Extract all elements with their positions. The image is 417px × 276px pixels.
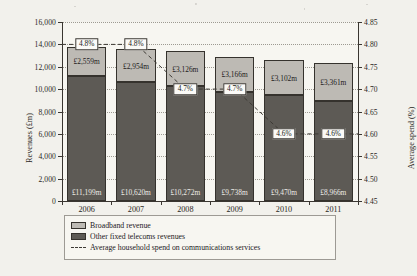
y-axis-left-tick-label: 4,000 [38, 152, 56, 161]
y-axis-right-tick [358, 134, 362, 135]
legend-label: Broadband revenue [90, 221, 151, 232]
legend-label: Other fixed telecoms revenues [90, 232, 185, 243]
x-axis-tick-label: 2009 [226, 205, 242, 214]
y-axis-right-tick [358, 112, 362, 113]
y-axis-right-tick [358, 156, 362, 157]
average-spend-callout: 4.7% [223, 83, 246, 95]
legend-item-average-spend: Average household spend on communication… [71, 243, 329, 254]
y-axis-right-tick [358, 89, 362, 90]
x-axis-tick-label: 2008 [177, 205, 193, 214]
y-axis-right-tick [358, 22, 362, 23]
average-spend-callout: 4.6% [272, 128, 295, 140]
average-spend-callout: 4.8% [124, 39, 147, 51]
y-axis-right-tick [358, 67, 362, 68]
y-axis-right-tick-label: 4.75 [364, 62, 378, 71]
x-axis-tick-label: 2007 [128, 205, 144, 214]
x-axis-tick [161, 201, 162, 205]
average-spend-line [62, 22, 358, 201]
average-spend-callout: 4.7% [174, 83, 197, 95]
y-axis-right-tick [358, 44, 362, 45]
x-axis-tick [358, 201, 359, 205]
chart-legend: Broadband revenue Other fixed telecoms r… [64, 215, 336, 260]
average-spend-callout: 4.8% [75, 39, 98, 51]
y-axis-right-tick-label: 4.80 [364, 40, 378, 49]
y-axis-left-tick-label: 10,000 [35, 85, 56, 94]
y-axis-right-tick [358, 179, 362, 180]
legend-swatch-icon [71, 233, 86, 240]
x-axis-tick-label: 2010 [276, 205, 292, 214]
y-axis-left-tick-label: 6,000 [38, 129, 56, 138]
y-axis-left-tick-label: 0 [52, 197, 56, 206]
y-axis-left-tick-label: 14,000 [35, 40, 56, 49]
y-axis-right-tick-label: 4.55 [364, 152, 378, 161]
x-axis-tick [309, 201, 310, 205]
y-axis-right-tick-label: 4.50 [364, 174, 378, 183]
y-axis-left-tick-label: 12,000 [35, 62, 56, 71]
y-axis-right-tick-label: 4.65 [364, 107, 378, 116]
y-axis-title-right: Average spend (%) [407, 107, 416, 170]
y-axis-left-tick-label: 8,000 [38, 107, 56, 116]
legend-item-broadband: Broadband revenue [71, 221, 329, 232]
legend-label: Average household spend on communication… [90, 243, 260, 254]
x-axis-tick [62, 201, 63, 205]
x-axis-tick-label: 2006 [78, 205, 94, 214]
average-spend-callout: 4.6% [322, 128, 345, 140]
y-axis-right-tick-label: 4.60 [364, 129, 378, 138]
x-axis-tick [259, 201, 260, 205]
y-axis-left-tick-label: 16,000 [35, 18, 56, 27]
y-axis-title-left: Revenues (£m) [25, 113, 34, 163]
legend-item-other-fixed: Other fixed telecoms revenues [71, 232, 329, 243]
legend-dashed-line-icon [71, 247, 86, 248]
plot-area: 02,0004,0006,0008,00010,00012,00014,0001… [62, 22, 358, 201]
legend-swatch-icon [71, 222, 86, 229]
y-axis-right-tick-label: 4.45 [364, 197, 378, 206]
y-axis-right-tick-label: 4.85 [364, 18, 378, 27]
y-axis-right-tick-label: 4.70 [364, 85, 378, 94]
x-axis-tick-label: 2011 [325, 205, 341, 214]
average-spend-polyline [62, 44, 358, 133]
x-axis-tick [210, 201, 211, 205]
y-axis-left-tick-label: 2,000 [38, 174, 56, 183]
scan-artifact [0, 0, 417, 16]
x-axis-tick [111, 201, 112, 205]
chart-page: Revenues (£m) Average spend (%) 02,0004,… [0, 0, 417, 276]
